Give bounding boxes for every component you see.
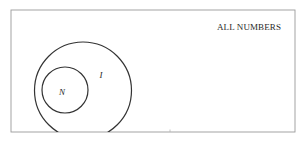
venn-diagram-canvas: ALL NUMBERS I N	[0, 0, 306, 141]
venn-diagram: ALL NUMBERS I N	[0, 0, 306, 141]
set-n-label: N	[58, 87, 66, 97]
universe-label: ALL NUMBERS	[217, 22, 281, 32]
